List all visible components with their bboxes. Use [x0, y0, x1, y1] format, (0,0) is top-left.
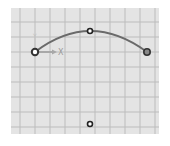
y-axis-label: Y [32, 32, 37, 39]
grid [11, 8, 159, 134]
x-axis-label: X [58, 48, 64, 57]
arc-start-point[interactable] [32, 49, 38, 55]
arc-center-point[interactable] [88, 122, 93, 127]
sketch-overlay: Y X [0, 0, 170, 146]
arc-end-point[interactable] [144, 49, 150, 55]
arc-curve[interactable] [35, 31, 147, 52]
arc-mid-point[interactable] [88, 29, 93, 34]
